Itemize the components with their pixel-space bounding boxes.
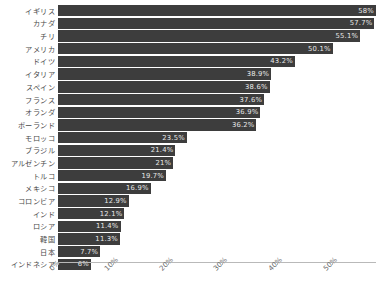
bar-container: 38.9%	[58, 68, 271, 79]
bar-row: イギリス58%	[0, 5, 383, 16]
bar-row: イタリア38.9%	[0, 68, 383, 79]
bar-container: 12.1%	[58, 208, 124, 219]
category-label: コロンビア	[18, 196, 58, 206]
bar-value-label: 38.6%	[245, 83, 268, 91]
bar: 21%	[58, 157, 173, 168]
bar-container: 11.4%	[58, 221, 121, 232]
bar-container: 38.6%	[58, 81, 270, 92]
bar: 6%	[58, 259, 91, 270]
category-label: イタリア	[25, 69, 58, 79]
bar-container: 16.9%	[58, 183, 151, 194]
bar-row: チリ55.1%	[0, 30, 383, 41]
category-label: ドイツ	[33, 56, 58, 66]
bar-row: モロッコ23.5%	[0, 132, 383, 143]
bar-value-label: 55.1%	[336, 32, 359, 40]
bar-value-label: 43.2%	[270, 57, 293, 65]
bar-chart: イギリス58%カナダ57.7%チリ55.1%アメリカ50.1%ドイツ43.2%イ…	[0, 0, 383, 293]
bar-container: 23.5%	[58, 132, 187, 143]
bar-row: ブラジル21.4%	[0, 145, 383, 156]
bar: 11.3%	[58, 233, 120, 244]
bar: 12.1%	[58, 208, 124, 219]
category-label: イギリス	[25, 6, 58, 16]
bar-row: メキシコ16.9%	[0, 183, 383, 194]
category-label: アルゼンチン	[11, 158, 58, 168]
bar-row: 韓国11.3%	[0, 233, 383, 244]
bar: 57.7%	[58, 18, 374, 29]
bar-row: アメリカ50.1%	[0, 43, 383, 54]
bar-value-label: 21%	[155, 159, 171, 167]
bar-row: オランダ36.9%	[0, 107, 383, 118]
bar: 50.1%	[58, 43, 333, 54]
bar-value-label: 37.6%	[240, 96, 263, 104]
category-label: オランダ	[25, 107, 58, 117]
bar-container: 6%	[58, 259, 91, 270]
bar-container: 19.7%	[58, 170, 166, 181]
bar-row: カナダ57.7%	[0, 18, 383, 29]
bar-value-label: 57.7%	[350, 19, 373, 27]
bar: 21.4%	[58, 145, 175, 156]
category-label: モロッコ	[25, 133, 58, 143]
category-label: チリ	[40, 31, 58, 41]
bar-container: 21%	[58, 157, 173, 168]
category-label: カナダ	[33, 18, 58, 28]
bar-row: ロシア11.4%	[0, 221, 383, 232]
bar-container: 11.3%	[58, 233, 120, 244]
bar-container: 21.4%	[58, 145, 175, 156]
bar-row: ポーランド36.2%	[0, 119, 383, 130]
category-label: ロシア	[33, 221, 58, 231]
category-label: ポーランド	[18, 120, 58, 130]
bar: 23.5%	[58, 132, 187, 143]
bar-row: トルコ19.7%	[0, 170, 383, 181]
bar-container: 57.7%	[58, 18, 374, 29]
category-label: アメリカ	[25, 44, 58, 54]
bar-row: アルゼンチン21%	[0, 157, 383, 168]
category-label: スペイン	[26, 82, 58, 92]
bar-container: 58%	[58, 5, 376, 16]
bar-value-label: 11.4%	[96, 222, 119, 230]
category-label: フランス	[25, 95, 58, 105]
bar: 38.9%	[58, 68, 271, 79]
bar-value-label: 23.5%	[162, 134, 185, 142]
bar-value-label: 12.1%	[100, 210, 123, 218]
bar: 43.2%	[58, 56, 295, 67]
bar-value-label: 19.7%	[141, 172, 164, 180]
bar-container: 36.9%	[58, 107, 260, 118]
bar: 7.7%	[58, 246, 100, 257]
bar-container: 36.2%	[58, 119, 256, 130]
category-label: インド	[33, 209, 58, 219]
category-label: 日本	[40, 247, 58, 257]
bar-value-label: 36.9%	[236, 108, 259, 116]
bar-container: 12.9%	[58, 195, 129, 206]
bar-row: インド12.1%	[0, 208, 383, 219]
bar-value-label: 38.9%	[247, 70, 270, 78]
bar-value-label: 11.3%	[95, 235, 118, 243]
category-label: 韓国	[40, 234, 58, 244]
bar: 38.6%	[58, 81, 270, 92]
bar: 55.1%	[58, 30, 360, 41]
bar-row: フランス37.6%	[0, 94, 383, 105]
bar: 36.9%	[58, 107, 260, 118]
category-label: メキシコ	[25, 183, 58, 193]
bar: 36.2%	[58, 119, 256, 130]
bar-value-label: 36.2%	[232, 121, 255, 129]
bar-row: スペイン38.6%	[0, 81, 383, 92]
bar-value-label: 16.9%	[126, 184, 149, 192]
bar-row: ドイツ43.2%	[0, 56, 383, 67]
bar-container: 55.1%	[58, 30, 360, 41]
bar: 11.4%	[58, 221, 121, 232]
bar-row: コロンビア12.9%	[0, 195, 383, 206]
bar: 37.6%	[58, 94, 264, 105]
bar-container: 37.6%	[58, 94, 264, 105]
bar: 16.9%	[58, 183, 151, 194]
category-label: トルコ	[33, 171, 58, 181]
bar: 58%	[58, 5, 376, 16]
bar-container: 7.7%	[58, 246, 100, 257]
category-label: ブラジル	[25, 145, 58, 155]
bar-value-label: 21.4%	[151, 146, 174, 154]
bar: 19.7%	[58, 170, 166, 181]
bar-value-label: 12.9%	[104, 197, 127, 205]
bar-value-label: 58%	[358, 7, 374, 15]
bar-rows: イギリス58%カナダ57.7%チリ55.1%アメリカ50.1%ドイツ43.2%イ…	[0, 5, 383, 271]
bar-value-label: 50.1%	[308, 45, 331, 53]
bar: 12.9%	[58, 195, 129, 206]
